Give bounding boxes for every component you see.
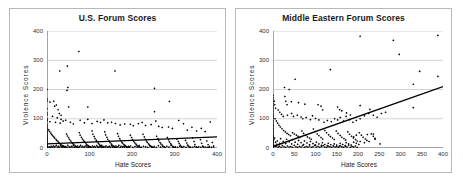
- y-tick-label: 300: [249, 57, 269, 63]
- data-point: [62, 120, 64, 122]
- data-point: [366, 133, 368, 135]
- data-point: [337, 132, 339, 134]
- data-point: [196, 130, 198, 132]
- data-point: [194, 143, 196, 145]
- data-point: [68, 138, 70, 140]
- data-point-group: [273, 34, 439, 148]
- data-point: [301, 130, 303, 132]
- data-point: [67, 144, 69, 146]
- data-point: [65, 119, 67, 121]
- data-point: [48, 129, 50, 131]
- data-point: [345, 142, 347, 144]
- data-point: [355, 119, 357, 121]
- data-point: [78, 132, 80, 134]
- data-point: [328, 134, 330, 136]
- data-point: [310, 138, 312, 140]
- y-tick-label: 0: [23, 145, 43, 151]
- data-point: [278, 124, 280, 126]
- data-point: [279, 126, 281, 128]
- data-point: [322, 109, 324, 111]
- data-point: [67, 86, 69, 88]
- data-point: [290, 101, 292, 103]
- data-point: [362, 136, 364, 138]
- data-point: [207, 144, 209, 146]
- x-tick-label: 400: [208, 151, 226, 157]
- data-point: [275, 107, 277, 109]
- y-tick-label: 200: [249, 86, 269, 92]
- data-point: [303, 140, 305, 142]
- data-point: [129, 134, 131, 136]
- data-point: [199, 139, 201, 141]
- data-point: [114, 70, 116, 72]
- data-point: [143, 136, 145, 138]
- data-point: [359, 118, 361, 120]
- data-point: [156, 135, 158, 137]
- data-point: [193, 141, 195, 143]
- data-point: [326, 132, 328, 134]
- data-point: [59, 70, 61, 72]
- y-tick-label: 400: [23, 28, 43, 34]
- data-point: [368, 141, 370, 143]
- scatter-svg-middle-eastern-forum: [273, 31, 443, 148]
- data-point: [345, 139, 347, 141]
- data-point: [66, 135, 68, 137]
- data-point: [317, 104, 319, 106]
- data-point: [320, 136, 322, 138]
- data-point: [291, 143, 293, 145]
- data-point: [286, 132, 288, 134]
- data-point: [331, 137, 333, 139]
- data-point: [341, 110, 343, 112]
- data-point: [295, 134, 297, 136]
- data-point: [364, 138, 366, 140]
- data-point: [366, 139, 368, 141]
- data-point: [339, 134, 341, 136]
- data-point: [153, 87, 155, 89]
- plot-area-us-forum: [47, 31, 217, 148]
- data-point: [302, 118, 304, 120]
- data-point: [283, 129, 285, 131]
- data-point: [275, 141, 277, 143]
- data-point: [284, 131, 286, 133]
- data-point: [329, 69, 331, 71]
- data-point: [104, 131, 106, 133]
- x-tick-label: 0: [38, 151, 56, 157]
- data-point: [300, 142, 302, 144]
- data-point: [297, 139, 299, 141]
- data-point: [354, 145, 356, 147]
- data-point: [306, 136, 308, 138]
- data-point: [316, 133, 318, 135]
- data-point: [369, 108, 371, 110]
- data-point: [318, 143, 320, 145]
- data-point: [66, 133, 68, 135]
- data-point: [345, 115, 347, 117]
- data-point: [372, 114, 374, 116]
- data-point: [322, 145, 324, 147]
- data-point: [317, 145, 319, 147]
- x-tick-label: 300: [392, 151, 410, 157]
- data-point: [359, 141, 361, 143]
- data-point: [343, 138, 345, 140]
- data-point: [49, 131, 51, 133]
- data-point: [178, 143, 180, 145]
- y-tick-label: 100: [249, 115, 269, 121]
- data-point: [385, 111, 387, 113]
- data-point: [68, 137, 70, 139]
- y-tick-label: 300: [23, 57, 43, 63]
- data-point: [211, 141, 213, 143]
- data-point: [298, 145, 300, 147]
- data-point: [339, 117, 341, 119]
- data-point: [283, 86, 285, 88]
- data-point: [59, 122, 61, 124]
- data-point: [72, 123, 74, 125]
- data-point: [93, 136, 95, 138]
- data-point: [60, 114, 62, 116]
- plot-wrap-middle-eastern-forum: Violence Scores Hate Scores 010020030040…: [236, 9, 451, 172]
- data-point: [339, 142, 341, 144]
- data-point: [288, 133, 290, 135]
- data-point: [347, 131, 349, 133]
- x-tick-label: 100: [307, 151, 325, 157]
- x-tick-label: 150: [328, 151, 346, 157]
- data-point: [111, 121, 113, 123]
- data-point: [284, 95, 286, 97]
- data-point: [351, 135, 353, 137]
